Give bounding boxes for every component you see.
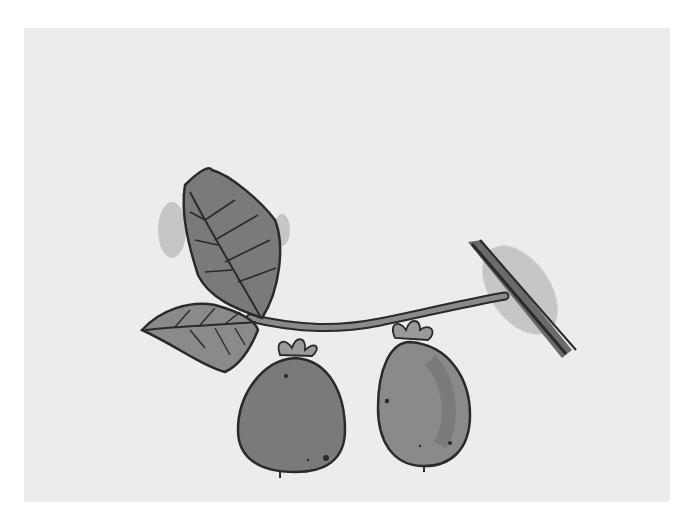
calyx-right: [393, 321, 433, 340]
branch: [250, 296, 505, 328]
calyx-left: [279, 339, 317, 356]
leaf-lower: [142, 304, 258, 372]
kiwi-fruit-right: [378, 342, 470, 472]
leaf-upper: [184, 168, 280, 318]
kiwi-fruit-left: [238, 358, 345, 478]
kiwi-branch-drawing: [0, 0, 675, 507]
